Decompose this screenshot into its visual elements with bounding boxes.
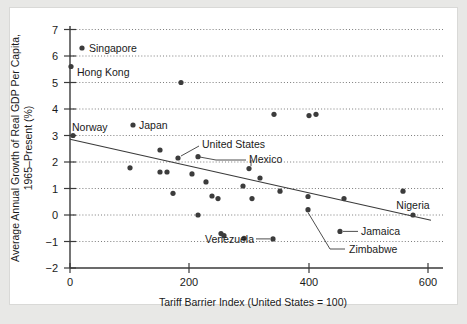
data-point	[271, 112, 276, 117]
data-point-nigeria	[410, 212, 415, 217]
y-tick-label-0: 0	[52, 209, 58, 221]
data-point	[209, 193, 214, 198]
data-point	[277, 189, 282, 194]
data-point	[257, 175, 262, 180]
y-tick-label-1: 1	[52, 183, 58, 195]
data-point	[240, 183, 245, 188]
data-point	[157, 169, 162, 174]
label-norway: Norway	[72, 121, 108, 133]
grid-lines	[70, 30, 443, 242]
x-tick-label-200: 200	[180, 276, 198, 288]
x-tick-labels: 0 200 400 600	[67, 276, 437, 288]
data-point	[215, 196, 220, 201]
y-axis-title-line1: Average Annual Growth of Real GDP Per Ca…	[9, 34, 21, 262]
data-point	[170, 191, 175, 196]
y-tick-label-3: 3	[52, 130, 58, 142]
data-point	[164, 169, 169, 174]
x-tick-label-400: 400	[300, 276, 318, 288]
data-point	[306, 113, 311, 118]
data-point-singapore	[79, 45, 84, 50]
y-axis-title-line2: 1965–Present (%)	[22, 106, 34, 191]
data-point-zimbabwe	[305, 207, 310, 212]
label-jamaica: Jamaica	[361, 225, 400, 237]
data-point	[400, 189, 405, 194]
label-hong-kong: Hong Kong	[77, 66, 130, 78]
label-singapore: Singapore	[89, 42, 137, 54]
label-venezuela: Venezuela	[205, 233, 254, 245]
x-axis-title: Tariff Barrier Index (United States = 10…	[159, 296, 347, 308]
data-point	[157, 147, 162, 152]
data-point	[189, 171, 194, 176]
leader-line-mexico	[198, 157, 246, 160]
data-point	[178, 80, 183, 85]
y-tick-label-5: 5	[52, 77, 58, 89]
y-tick-labels: 7 6 5 4 3 2 1 0 −1 −2	[45, 24, 58, 275]
data-point	[203, 179, 208, 184]
y-tick-label-2: 2	[52, 156, 58, 168]
point-labels: Singapore Hong Kong Japan Norway United …	[72, 42, 430, 255]
y-tick-label-m2: −2	[45, 262, 58, 274]
y-tick-label-m1: −1	[45, 236, 58, 248]
data-point-usa	[175, 155, 180, 160]
data-point-japan	[130, 122, 135, 127]
label-mexico: Mexico	[249, 153, 282, 165]
plot-svg: 7 6 5 4 3 2 1 0 −1 −2 0 200 400 600 Tari…	[0, 0, 467, 324]
data-point	[127, 165, 132, 170]
scatter-chart: 7 6 5 4 3 2 1 0 −1 −2 0 200 400 600 Tari…	[0, 0, 467, 324]
data-point-hong-kong	[68, 64, 73, 69]
label-zimbabwe: Zimbabwe	[349, 243, 398, 255]
label-nigeria: Nigeria	[396, 199, 429, 211]
x-tick-label-0: 0	[67, 276, 73, 288]
label-united-states: United States	[202, 138, 265, 150]
data-point-venezuela	[270, 236, 275, 241]
data-point-jamaica	[337, 229, 342, 234]
y-tick-label-4: 4	[52, 103, 58, 115]
y-tick-label-6: 6	[52, 50, 58, 62]
data-point	[305, 194, 310, 199]
data-point-mexico	[246, 166, 251, 171]
data-point-norway	[70, 133, 75, 138]
label-japan: Japan	[139, 119, 168, 131]
x-tick-label-600: 600	[419, 276, 437, 288]
data-point	[313, 112, 318, 117]
data-point	[195, 212, 200, 217]
y-tick-label-7: 7	[52, 24, 58, 36]
data-point	[249, 196, 254, 201]
trend-line	[70, 139, 431, 220]
leader-line-united-states	[181, 146, 199, 156]
data-point	[341, 196, 346, 201]
